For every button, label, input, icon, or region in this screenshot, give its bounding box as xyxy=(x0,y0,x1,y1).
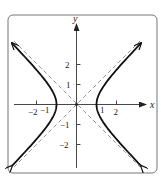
y-tick-label-2: 2 xyxy=(65,60,70,70)
figure-frame xyxy=(8,15,157,173)
x-tick-label-2: 2 xyxy=(114,107,119,117)
x-tick-label-neg2: −2 xyxy=(28,107,38,117)
y-tick-label-neg2: −2 xyxy=(59,140,69,150)
x-tick-label-neg1: −1 xyxy=(40,105,50,115)
y-tick-label-1: 1 xyxy=(66,80,71,90)
origin-point xyxy=(75,103,78,106)
y-axis-label: y xyxy=(72,13,78,24)
x-tick-label-1: 1 xyxy=(100,105,105,115)
hyperbola-figure: x y −2 −1 1 2 2 1 −1 −2 xyxy=(0,0,161,176)
y-tick-label-neg1: −1 xyxy=(60,120,70,130)
x-axis-label: x xyxy=(149,99,155,110)
